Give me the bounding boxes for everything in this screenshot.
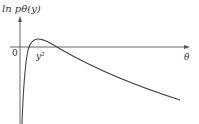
y-axis-arrow-icon <box>18 16 22 22</box>
x-axis-arrow-icon <box>184 45 190 49</box>
log-likelihood-curve <box>22 39 180 124</box>
x-axis-label: θ <box>184 53 189 62</box>
origin-label: 0 <box>12 49 18 58</box>
log-likelihood-plot <box>0 0 199 124</box>
y-axis-label: ln pθ(y) <box>2 4 41 14</box>
peak-label: y² <box>36 52 45 61</box>
